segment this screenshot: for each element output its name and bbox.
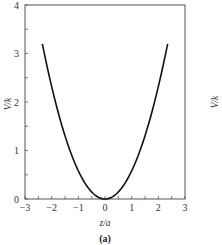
x-tick-label: 1	[129, 202, 134, 213]
y-axis-ticks: 01234	[14, 0, 28, 205]
x-tick-label: −2	[46, 202, 57, 213]
x-tick-label: 2	[156, 202, 161, 213]
x-axis-label: z/a	[98, 218, 110, 228]
x-tick-label: 0	[103, 202, 108, 213]
y-tick-label: 3	[14, 48, 19, 59]
right-panel-ylabel-partial: V/k	[210, 95, 220, 108]
y-axis-label: V/k	[3, 97, 13, 110]
x-tick-label: −3	[20, 202, 31, 213]
y-tick-label: 1	[14, 145, 19, 156]
data-curve	[42, 44, 167, 199]
y-tick-label: 2	[14, 97, 19, 108]
chart-figure: −3−2−10123 01234 z/a V/k (a) V/k	[0, 0, 222, 245]
plot-frame	[25, 5, 185, 199]
panel-label: (a)	[99, 233, 111, 245]
y-tick-label: 0	[14, 194, 19, 205]
x-tick-label: −1	[73, 202, 84, 213]
y-tick-label: 4	[14, 0, 19, 11]
x-tick-label: 3	[183, 202, 188, 213]
